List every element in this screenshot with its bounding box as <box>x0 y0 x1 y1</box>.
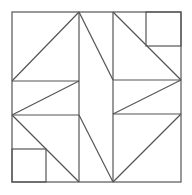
left-band-diagonal <box>12 81 79 115</box>
bottom-left-square <box>12 149 46 182</box>
lines-group <box>12 12 181 182</box>
center-upper-diagonal <box>79 12 113 80</box>
top-left-diagonal <box>12 12 79 81</box>
right-band-diagonal <box>113 80 181 114</box>
outer-square <box>12 12 181 182</box>
bottom-right-diagonal <box>113 114 181 182</box>
quilt-block-diagram <box>0 0 192 195</box>
center-lower-diagonal <box>79 115 113 182</box>
small-squares-group <box>12 12 181 182</box>
top-right-square <box>146 12 181 46</box>
